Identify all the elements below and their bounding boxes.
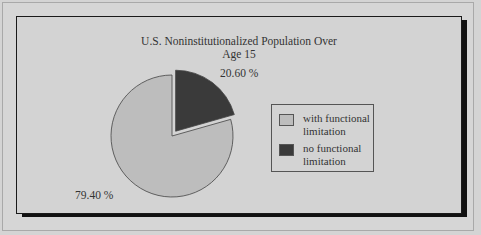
pie-chart [17, 17, 461, 213]
legend-item-with-limitation: with functional limitation [279, 112, 373, 137]
legend-label-no-limitation-line2: limitation [303, 155, 373, 168]
legend: with functional limitation no functional… [271, 104, 374, 172]
legend-swatch-with-limitation [279, 114, 294, 126]
chart-area: U.S. Noninstitutionalized Population Ove… [16, 16, 462, 214]
legend-item-no-limitation: no functional limitation [279, 142, 373, 167]
slice-label-with-limitation: 79.40 % [75, 189, 113, 201]
legend-label-with-limitation-line2: limitation [303, 125, 373, 138]
legend-label-no-limitation-line1: no functional [303, 142, 373, 155]
legend-label-with-limitation-line1: with functional [303, 112, 373, 125]
slice-label-no-limitation: 20.60 % [220, 67, 258, 79]
legend-swatch-no-limitation [279, 144, 294, 156]
